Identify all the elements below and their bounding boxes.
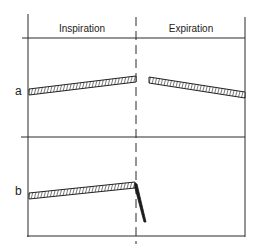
bar-a-expiration: [149, 77, 245, 98]
row-label-b: b: [15, 184, 22, 198]
bar-b-drop: [135, 183, 146, 222]
inspiration-label: Inspiration: [59, 23, 105, 34]
row-label-a: a: [15, 84, 22, 98]
bar-a-inspiration: [29, 76, 136, 95]
expiration-label: Expiration: [169, 23, 213, 34]
respiration-diagram: Inspiration Expiration a b: [0, 0, 255, 250]
bar-b-inspiration: [29, 182, 135, 199]
